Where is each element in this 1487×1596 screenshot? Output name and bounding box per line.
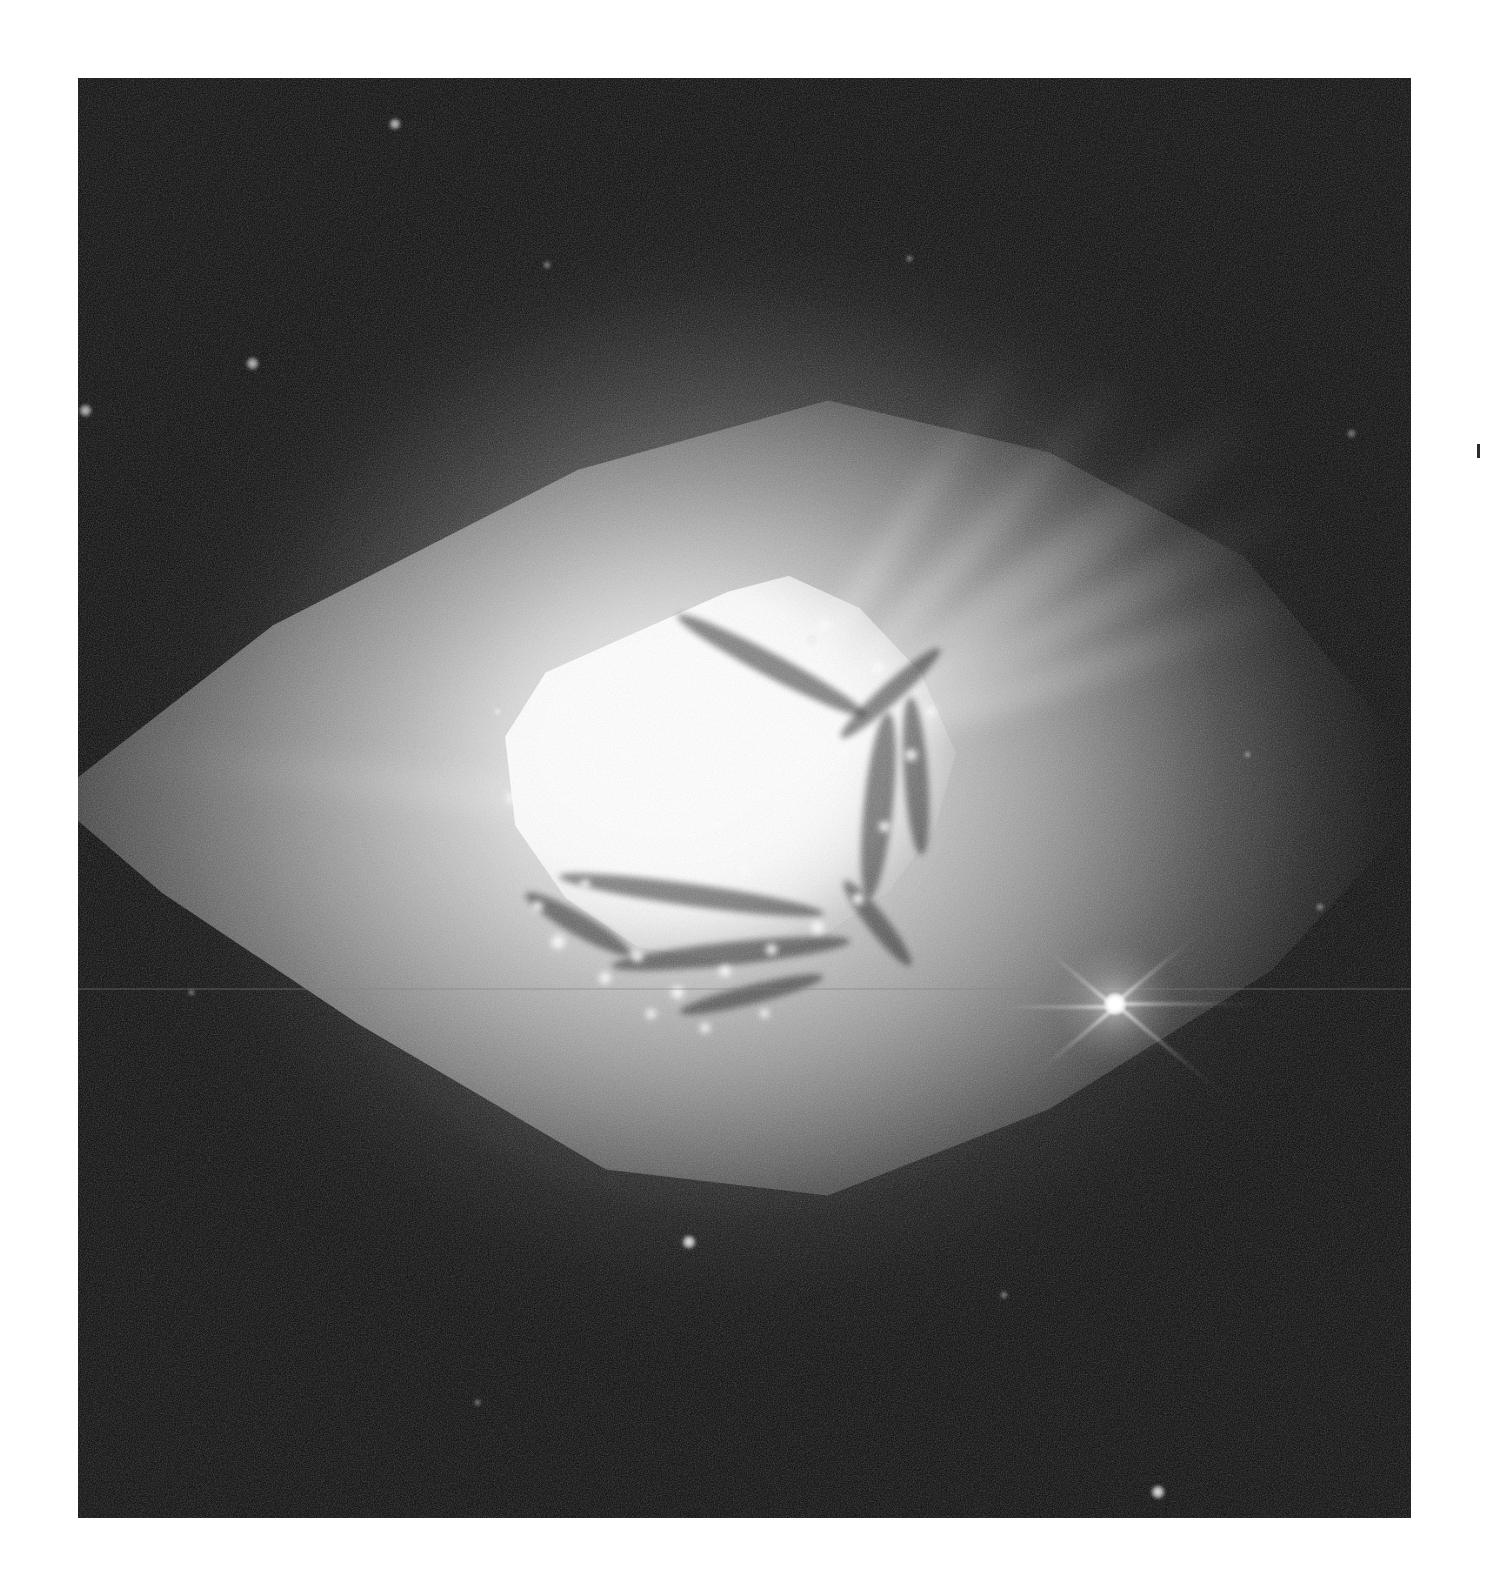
field-star-c	[79, 404, 92, 417]
field-star-f	[1347, 429, 1356, 438]
horizontal-scanline-artifact	[78, 988, 1411, 990]
field-star-a	[389, 118, 401, 130]
field-star-e	[1151, 1485, 1165, 1499]
spike-left	[965, 1005, 1115, 1008]
page-canvas	[0, 0, 1487, 1596]
field-star-j	[906, 255, 913, 262]
field-star-m	[1000, 1291, 1008, 1299]
field-star-l	[474, 1399, 481, 1406]
star-core-dot	[1104, 993, 1126, 1015]
astronomical-plate[interactable]	[78, 78, 1411, 1518]
registration-tick	[1477, 444, 1480, 458]
field-star-d	[682, 1235, 696, 1249]
field-star-i	[543, 261, 551, 269]
field-star-b	[246, 357, 259, 370]
spike-right	[1115, 1002, 1265, 1005]
